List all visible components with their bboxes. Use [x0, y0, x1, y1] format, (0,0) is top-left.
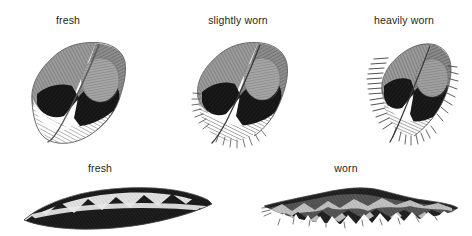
- label-barred-fresh: fresh: [88, 162, 112, 174]
- specimen-covert-slightly-worn: [188, 36, 292, 148]
- specimen-barred-worn: [262, 182, 460, 234]
- label-covert-heavily-worn: heavily worn: [374, 14, 434, 26]
- label-covert-fresh: fresh: [56, 14, 80, 26]
- label-barred-worn: worn: [334, 162, 357, 174]
- feather-wear-figure: fresh slightly worn heavily worn: [0, 0, 472, 236]
- specimen-covert-heavily-worn: [366, 36, 458, 148]
- label-covert-slightly-worn: slightly worn: [208, 14, 268, 26]
- specimen-covert-fresh: [24, 36, 128, 148]
- specimen-barred-fresh: [22, 182, 214, 234]
